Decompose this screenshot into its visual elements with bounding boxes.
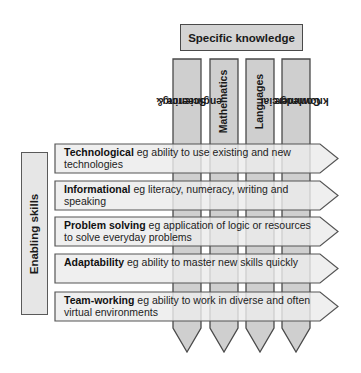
row-informational: Informational eg literacy, numeracy, wri… [64, 184, 314, 207]
column-label-line: Mathematics [219, 69, 230, 133]
row-desc: eg ability to master new skills quickly [124, 256, 298, 268]
row-adaptability: Adaptability eg ability to master new sk… [64, 257, 314, 269]
column-label-mathematics: Mathematics [210, 59, 238, 143]
enabling-skills-box: Enabling skills [21, 152, 48, 315]
enabling-skills-label: Enabling skills [29, 193, 41, 274]
column-label-science-engineering: Science &engineering [173, 59, 201, 143]
column-label-line: knowledge [271, 96, 331, 107]
row-title: Problem solving [64, 219, 146, 231]
row-title: Team-working [64, 294, 134, 306]
row-team-working: Team-working eg ability to work in diver… [64, 295, 314, 318]
row-problem-solving: Problem solving eg application of logic … [64, 220, 314, 243]
row-technological: Technological eg ability to use existing… [64, 147, 314, 170]
row-title: Informational [64, 183, 131, 195]
row-title: Technological [64, 146, 134, 158]
row-title: Adaptability [64, 256, 124, 268]
column-label-commercial-knowledge: Commercialknowledge [282, 59, 310, 143]
